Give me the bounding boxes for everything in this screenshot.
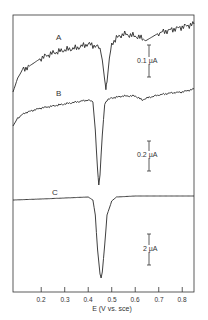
- x-tick-label: 0.8: [177, 296, 186, 303]
- curve-b: [13, 88, 194, 185]
- x-axis-label: E (V vs. sce): [92, 305, 132, 312]
- curve-a: [13, 22, 194, 92]
- x-axis-ticks: [41, 287, 182, 292]
- scale-label-c: 2 µA: [143, 245, 158, 252]
- x-tick-label: 0.6: [130, 296, 139, 303]
- x-tick-label: 0.7: [154, 296, 163, 303]
- curve-c: [13, 196, 194, 278]
- scale-label-b: 0.2 µA: [137, 151, 157, 158]
- curves: [13, 22, 194, 278]
- curve-label-c: C: [52, 188, 58, 197]
- x-tick-label: 0.3: [60, 296, 69, 303]
- curve-label-b: B: [56, 89, 61, 98]
- voltammogram-plot: [0, 0, 208, 320]
- plot-frame: [13, 15, 194, 292]
- x-tick-label: 0.4: [83, 296, 92, 303]
- scale-label-a: 0.1 µA: [137, 57, 157, 64]
- x-tick-label: 0.2: [36, 296, 45, 303]
- x-tick-label: 0.5: [107, 296, 116, 303]
- curve-label-a: A: [56, 33, 61, 42]
